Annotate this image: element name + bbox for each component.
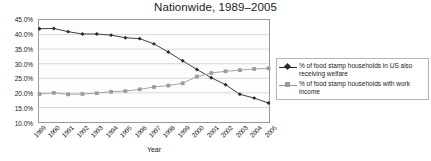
series-layer xyxy=(39,20,269,122)
data-point xyxy=(52,91,56,95)
x-axis-tick-label: 2005 xyxy=(263,124,278,139)
data-point xyxy=(123,89,127,93)
data-point xyxy=(209,76,213,80)
data-point xyxy=(52,26,56,30)
legend-item-label: % of food stamp households in US also re… xyxy=(297,62,426,78)
y-axis-tick-label: 25.0% xyxy=(15,75,33,82)
data-point xyxy=(109,33,113,37)
data-point xyxy=(166,84,170,88)
x-axis-tick-label: 1990 xyxy=(46,124,61,139)
x-axis-tick-label: 2004 xyxy=(248,124,263,139)
data-point xyxy=(195,75,199,79)
chart-container: Nationwide, 1989–2005 45.0%40.0%35.0%30.… xyxy=(0,0,431,161)
y-axis: 45.0%40.0%35.0%30.0%25.0%20.0%15.0%10.0% xyxy=(0,19,36,123)
y-axis-tick-label: 15.0% xyxy=(15,105,33,112)
y-axis-tick-label: 35.0% xyxy=(15,45,33,52)
data-point xyxy=(81,92,85,96)
data-point xyxy=(138,37,142,41)
y-axis-tick-label: 20.0% xyxy=(15,90,33,97)
plot-area xyxy=(38,19,270,123)
y-axis-tick-label: 40.0% xyxy=(15,30,33,37)
x-axis-tick-label: 1997 xyxy=(147,124,162,139)
data-point xyxy=(123,36,127,40)
x-axis-tick-label: 1991 xyxy=(61,124,76,139)
y-axis-tick-label: 10.0% xyxy=(15,120,33,127)
data-point xyxy=(95,32,99,36)
data-point xyxy=(138,87,142,91)
x-axis-tick-label: 1995 xyxy=(118,124,133,139)
chart-legend: % of food stamp households in US also re… xyxy=(276,58,429,100)
data-point xyxy=(38,27,42,31)
y-axis-tick-label: 30.0% xyxy=(15,60,33,67)
legend-key-square-icon xyxy=(279,81,297,90)
x-axis-tick-label: 1998 xyxy=(162,124,177,139)
x-axis-tick-label: 2001 xyxy=(205,124,220,139)
data-point xyxy=(267,67,271,71)
x-axis-tick-label: 1999 xyxy=(176,124,191,139)
data-point xyxy=(224,69,228,73)
legend-item-label: % of food stamp households with work inc… xyxy=(297,80,426,96)
y-axis-tick-label: 45.0% xyxy=(15,16,33,23)
x-axis-tick-label: 1992 xyxy=(75,124,90,139)
legend-item: % of food stamp households in US also re… xyxy=(279,62,426,78)
legend-key-diamond-icon xyxy=(279,63,297,72)
data-point xyxy=(38,92,42,96)
data-point xyxy=(80,32,84,36)
data-point xyxy=(66,30,70,34)
x-axis-tick-label: 1996 xyxy=(133,124,148,139)
data-point xyxy=(181,81,185,85)
data-point xyxy=(209,71,213,75)
legend-item: % of food stamp households with work inc… xyxy=(279,80,426,96)
x-axis-tick-label: 1989 xyxy=(32,124,47,139)
data-point xyxy=(252,67,256,71)
x-axis-tick-label: 1994 xyxy=(104,124,119,139)
data-point xyxy=(95,91,99,95)
chart-title: Nationwide, 1989–2005 xyxy=(0,1,431,13)
data-point xyxy=(238,68,242,72)
series-line-1 xyxy=(39,28,268,103)
x-axis-tick-label: 2000 xyxy=(191,124,206,139)
x-axis: 1989199019911992199319941995199619971998… xyxy=(38,124,270,148)
x-axis-title: Year xyxy=(38,146,270,153)
x-axis-tick-label: 2003 xyxy=(234,124,249,139)
data-point xyxy=(109,90,113,94)
data-point xyxy=(152,85,156,89)
data-point xyxy=(267,101,271,105)
data-point xyxy=(252,96,256,100)
x-axis-tick-label: 2002 xyxy=(219,124,234,139)
data-point xyxy=(66,92,70,96)
x-axis-tick-label: 1993 xyxy=(89,124,104,139)
data-point xyxy=(152,42,156,46)
